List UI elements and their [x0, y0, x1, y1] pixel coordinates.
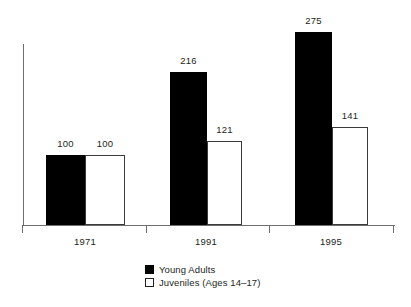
bar-1995-juveniles	[332, 127, 368, 225]
legend-swatch-young-adults-icon	[145, 265, 154, 274]
legend-label-young-adults: Young Adults	[159, 264, 215, 275]
x-axis-tick-end	[393, 226, 394, 233]
x-axis-tick-start	[22, 226, 23, 233]
chart-legend: Young Adults Juveniles (Ages 14–17)	[145, 264, 260, 288]
bar-1991-young-adults	[170, 72, 207, 225]
x-axis-tick-2	[269, 226, 270, 233]
y-axis-line	[23, 44, 24, 226]
x-axis-label-1991: 1991	[175, 236, 237, 248]
x-axis-label-1995: 1995	[300, 236, 362, 248]
bar-1995-young-adults	[295, 32, 332, 225]
legend-item-juveniles: Juveniles (Ages 14–17)	[145, 277, 260, 288]
legend-item-young-adults: Young Adults	[145, 264, 260, 275]
bar-1971-young-adults	[46, 155, 85, 225]
bar-1991-juveniles	[207, 141, 242, 225]
bar-1971-juveniles	[85, 155, 125, 225]
value-label-1995-juveniles: 141	[332, 110, 368, 121]
x-axis-tick-1	[146, 226, 147, 233]
value-label-1995-young-adults: 275	[295, 15, 332, 26]
value-label-1991-juveniles: 121	[207, 124, 242, 135]
x-axis-line	[22, 225, 395, 226]
value-label-1991-young-adults: 216	[170, 55, 207, 66]
legend-swatch-juveniles-icon	[145, 278, 154, 287]
bar-chart: 100 100 216 121 275 141 1971 1991 1995 Y…	[0, 0, 411, 307]
value-label-1971-juveniles: 100	[85, 138, 125, 149]
x-axis-label-1971: 1971	[54, 236, 116, 248]
value-label-1971-young-adults: 100	[46, 138, 85, 149]
legend-label-juveniles: Juveniles (Ages 14–17)	[159, 277, 260, 288]
